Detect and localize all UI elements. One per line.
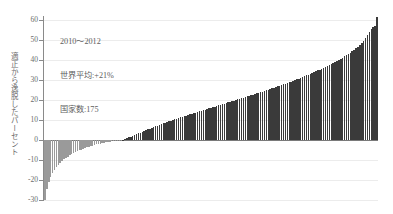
annotation-block: 2010〜2012 世界平均:+21% 国家数:175 <box>60 13 114 138</box>
y-axis-tick <box>39 180 44 181</box>
gridline <box>44 200 378 201</box>
bar <box>376 17 377 140</box>
y-axis-tick <box>39 60 44 61</box>
y-axis-tick <box>39 100 44 101</box>
y-axis-tick-label: 40 <box>4 56 38 64</box>
y-axis-tick <box>39 80 44 81</box>
annotation-world-average: 世界平均:+21% <box>60 70 114 81</box>
y-axis-tick-label: 20 <box>4 96 38 104</box>
y-axis-tick-label: 0 <box>4 136 38 144</box>
y-axis-tick-label: 60 <box>4 16 38 24</box>
y-axis-tick <box>39 40 44 41</box>
y-axis-tick-label: -10 <box>4 156 38 164</box>
y-axis-tick <box>39 160 44 161</box>
annotation-period: 2010〜2012 <box>60 36 114 47</box>
y-axis-tick-label: -30 <box>4 196 38 204</box>
y-axis-tick-label: 30 <box>4 76 38 84</box>
chart-container: 適正から逸脱したパーセント 6050403020100-10-20-30 201… <box>0 0 393 214</box>
y-axis-tick-label: -20 <box>4 176 38 184</box>
y-axis-tick-label: 50 <box>4 36 38 44</box>
y-axis-tick <box>39 200 44 201</box>
y-axis-tick <box>39 120 44 121</box>
y-axis-tick-labels: 6050403020100-10-20-30 <box>0 0 38 214</box>
annotation-country-count: 国家数:175 <box>60 104 114 115</box>
y-axis-tick <box>39 140 44 141</box>
y-axis-tick-label: 10 <box>4 116 38 124</box>
y-axis-tick <box>39 20 44 21</box>
